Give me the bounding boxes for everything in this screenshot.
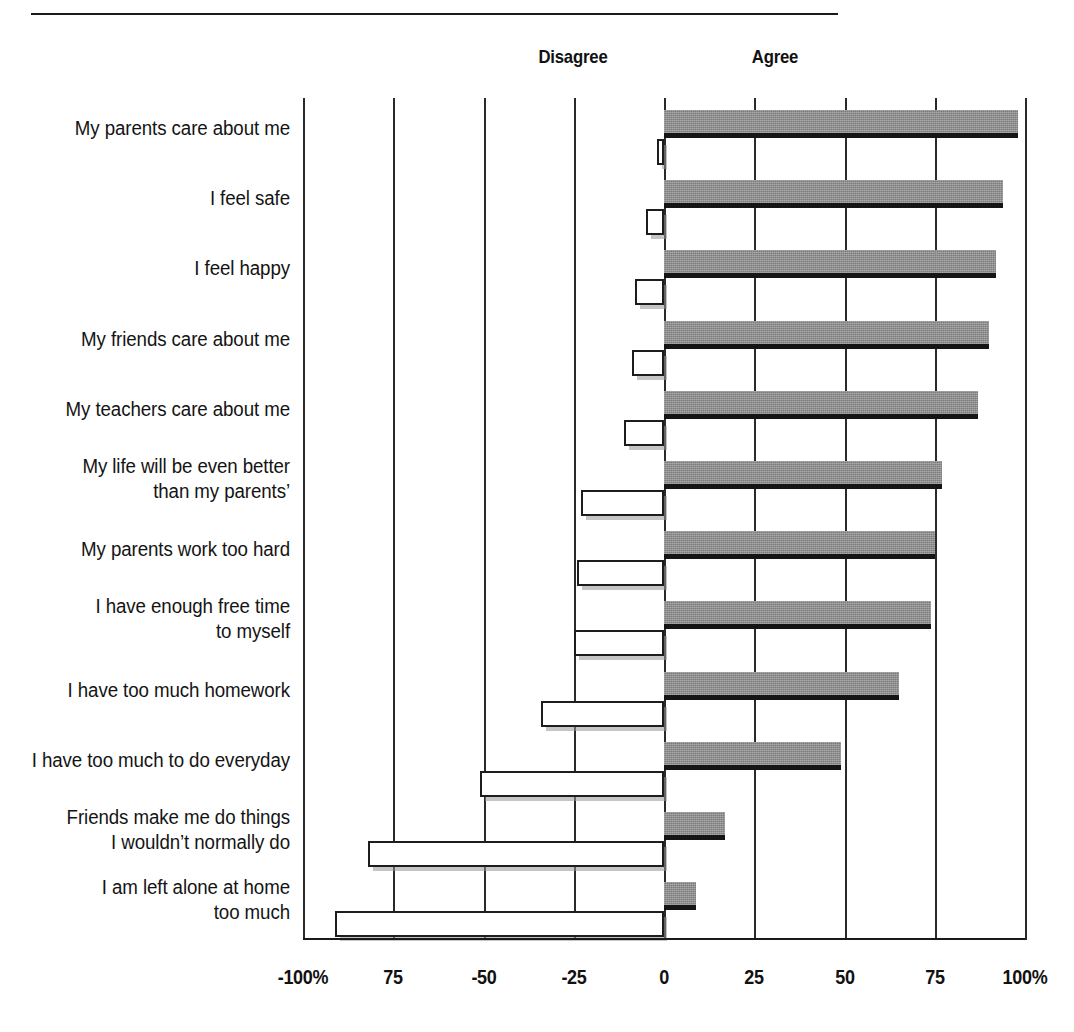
bar-agree (664, 672, 899, 700)
x-tick-25: 25 (745, 966, 764, 989)
chart-row: I feel happy (303, 238, 1025, 308)
bar-agree (664, 531, 935, 559)
category-label: My life will be even better than my pare… (0, 454, 290, 504)
chart-row: My teachers care about me (303, 379, 1025, 449)
legend-label-agree: Agree (731, 46, 819, 68)
chart-row: My life will be even better than my pare… (303, 449, 1025, 519)
bar-disagree (577, 560, 664, 586)
header-divider (31, 13, 838, 15)
x-tick-0: 0 (659, 966, 669, 989)
x-tick-50: 50 (835, 966, 854, 989)
chart-plot-area: My parents care about meI feel safeI fee… (303, 98, 1025, 940)
chart-row: I have enough free time to myself (303, 589, 1025, 659)
bar-disagree (368, 841, 664, 867)
x-axis-line (303, 938, 1025, 940)
chart-row: I have too much to do everyday (303, 730, 1025, 800)
category-label: My friends care about me (0, 327, 290, 352)
x-tick-100: 100% (1003, 966, 1048, 989)
bar-agree (664, 391, 978, 419)
bar-disagree (632, 350, 664, 376)
category-label: I have too much homework (0, 678, 290, 703)
x-tick--25: -25 (561, 966, 586, 989)
category-label: I am left alone at home too much (0, 875, 290, 925)
category-label: Friends make me do things I wouldn’t nor… (0, 805, 290, 855)
bar-agree (664, 882, 696, 910)
chart-row: Friends make me do things I wouldn’t nor… (303, 800, 1025, 870)
x-tick--100: -100% (278, 966, 329, 989)
bar-agree (664, 321, 989, 349)
bar-disagree (574, 630, 664, 656)
bar-disagree (581, 490, 664, 516)
chart-row: I am left alone at home too much (303, 870, 1025, 940)
bar-agree (664, 110, 1018, 138)
bar-agree (664, 180, 1003, 208)
bar-disagree (541, 701, 664, 727)
chart-row: I feel safe (303, 168, 1025, 238)
bar-disagree (335, 911, 664, 937)
bar-disagree (624, 420, 664, 446)
bar-agree (664, 812, 725, 840)
category-label: I have enough free time to myself (0, 594, 290, 644)
category-label: My parents work too hard (0, 537, 290, 562)
bar-disagree (480, 771, 664, 797)
gridline-100 (1025, 98, 1027, 940)
chart-row: My parents care about me (303, 98, 1025, 168)
x-tick--50: -50 (471, 966, 496, 989)
category-label: I feel happy (0, 256, 290, 281)
legend-label-disagree: Disagree (520, 46, 626, 68)
x-tick-75: 75 (925, 966, 944, 989)
bar-agree (664, 250, 996, 278)
bar-disagree (657, 139, 664, 165)
bar-disagree (635, 279, 664, 305)
bar-disagree (646, 209, 664, 235)
x-tick--75: 75 (384, 966, 403, 989)
chart-row: My parents work too hard (303, 519, 1025, 589)
category-label: I have too much to do everyday (0, 748, 290, 773)
chart-row: I have too much homework (303, 660, 1025, 730)
chart-row: My friends care about me (303, 309, 1025, 379)
bar-agree (664, 601, 931, 629)
bar-agree (664, 742, 841, 770)
category-label: I feel safe (0, 186, 290, 211)
bar-agree (664, 461, 942, 489)
category-label: My teachers care about me (0, 397, 290, 422)
category-label: My parents care about me (0, 116, 290, 141)
